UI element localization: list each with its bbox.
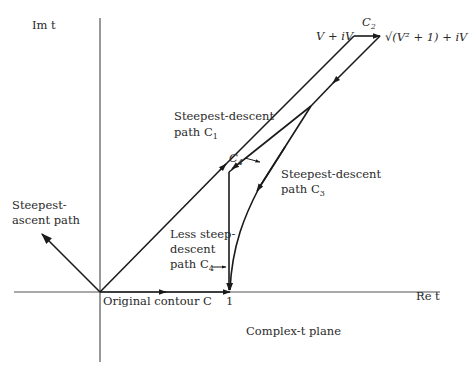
steepest-ascent-path <box>42 234 100 292</box>
c4-pointer-label: C4 <box>229 151 243 167</box>
c4-upper-segment <box>229 168 234 172</box>
corner-right-label: √(V² + 1) + iV <box>385 30 469 44</box>
point-one-label: 1 <box>226 294 233 308</box>
c1-label-line1: Steepest-descent <box>174 109 274 123</box>
c3-label-line1: Steepest-descent <box>281 167 381 181</box>
path-c3 <box>230 106 311 290</box>
c2-label: C2 <box>362 15 376 31</box>
ascent-label-line2: ascent path <box>12 213 81 227</box>
return-segment <box>311 81 335 106</box>
real-axis-label-text: Re t <box>416 289 440 303</box>
original-contour-label: Original contour C <box>103 294 212 308</box>
complex-plane-diagram: Im t Re t V + iV √(V² + 1) + iV C2 Steep… <box>0 0 474 374</box>
imag-axis-label-text: Im t <box>32 18 56 32</box>
c4-label-line3: path C4 <box>170 257 214 273</box>
corner-left-label: V + iV <box>316 29 355 43</box>
real-axis-label: Re t <box>416 289 440 303</box>
c4-label-line2: descent <box>170 242 216 256</box>
ascent-label-line1: Steepest- <box>12 198 67 212</box>
return-arrow <box>333 36 380 83</box>
path-c1 <box>220 36 354 170</box>
imag-axis-label: Im t <box>32 18 56 32</box>
c4-pointer-arrow <box>245 158 260 162</box>
c3-label-line2: path C3 <box>281 182 325 198</box>
c4-label-line1: Less steep- <box>170 227 235 241</box>
c1-label-line2: path C1 <box>174 125 218 141</box>
plane-label: Complex-t plane <box>246 324 341 338</box>
